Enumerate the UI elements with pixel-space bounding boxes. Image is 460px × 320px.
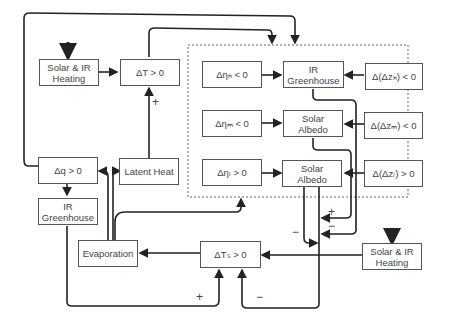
dz-h-box: Δ(Δzₕ) < 0 [365, 63, 423, 90]
box-label: Solar [297, 163, 327, 174]
box-label: Heating [47, 73, 90, 84]
box-label: Δηₗ > 0 [217, 167, 247, 178]
box-label: Solar & IR [47, 62, 90, 73]
ir-greenhouse-left-box: IRGreenhouse [38, 198, 98, 225]
box-label: Solar [298, 113, 328, 124]
box-label: Albedo [298, 124, 328, 135]
solar-ir-heating-top-box: Solar & IRHeating [39, 59, 99, 86]
sign-greenhouse-to-ts: + [196, 291, 203, 303]
box-label: Δq > 0 [54, 165, 82, 176]
sign-feedback-minus: − [256, 291, 263, 303]
box-label: ΔTₛ > 0 [214, 249, 246, 260]
box-label: Δ(Δzₕ) < 0 [372, 71, 416, 82]
delta-t-box: ΔT > 0 [120, 59, 180, 86]
dz-m-box: Δ(Δzₘ) < 0 [364, 112, 423, 139]
delta-ts-box: ΔTₛ > 0 [200, 241, 261, 268]
box-label: IR [42, 201, 94, 212]
box-label: Evaporation [83, 248, 134, 259]
eta-m-box: Δηₘ < 0 [202, 110, 262, 137]
box-label: IR [287, 64, 339, 75]
box-label: Greenhouse [287, 75, 339, 86]
box-label: ΔT > 0 [136, 67, 164, 78]
box-label: Greenhouse [42, 212, 94, 223]
ir-greenhouse-cloud-box: IRGreenhouse [283, 61, 344, 88]
solar-albedo-m-box: SolarAlbedo [283, 110, 343, 137]
dz-l-box: Δ(Δzₗ) > 0 [364, 160, 423, 187]
sign-latent-to-dt: + [152, 96, 159, 108]
latent-heat-box: Latent Heat [119, 158, 179, 185]
box-label: Heating [370, 257, 413, 268]
box-label: Δηₘ < 0 [215, 118, 249, 129]
eta-l-box: Δηₗ > 0 [202, 159, 262, 186]
box-label: Solar & IR [370, 246, 413, 257]
sign-cloud-minus: − [328, 220, 335, 232]
box-label: Δηₕ < 0 [216, 69, 248, 80]
solar-ir-heating-bottom-box: Solar & IRHeating [362, 243, 422, 270]
evaporation-box: Evaporation [78, 240, 138, 267]
eta-h-box: Δηₕ < 0 [202, 61, 262, 88]
sign-cloud-plus: + [328, 206, 335, 218]
solar-albedo-l-box: SolarAlbedo [282, 160, 342, 187]
box-label: Δ(Δzₘ) < 0 [371, 120, 417, 131]
delta-q-box: Δq > 0 [38, 157, 98, 184]
box-label: Latent Heat [124, 166, 173, 177]
sign-albedo-minus: − [292, 226, 299, 238]
box-label: Albedo [297, 174, 327, 185]
box-label: Δ(Δzₗ) > 0 [373, 168, 415, 179]
